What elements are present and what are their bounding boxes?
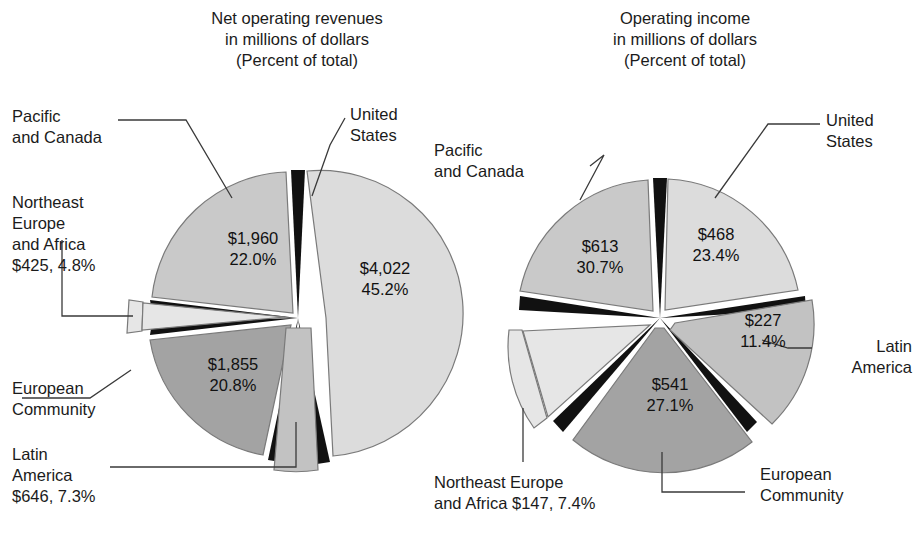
slice-label-left-pacific-canada: $1,960 22.0% — [198, 228, 308, 270]
pie-left-slice-latin-america — [274, 328, 318, 472]
slice-label-right-united-states: $468 23.4% — [666, 224, 766, 266]
callout-left-northeast-europe-africa: Northeast Europe and Africa $425, 4.8% — [12, 192, 95, 276]
leader-left-united-states — [312, 118, 345, 196]
slice-label-right-european-community: $541 27.1% — [620, 374, 720, 416]
leader-left-pacific-canada — [118, 120, 232, 198]
callout-right-pacific-canada: Pacific and Canada — [434, 140, 524, 182]
slice-label-right-latin-america: $227 11.4% — [716, 310, 810, 352]
leader-right-pacific-canada — [580, 155, 604, 200]
leader-right-european-community — [662, 452, 745, 492]
callout-left-united-states: United States — [350, 104, 398, 146]
callout-left-european-community: European Community — [12, 378, 95, 420]
chart-title-operating-income: Operating income in millions of dollars … — [540, 8, 830, 71]
pie-left-slice-northeast-europe-africa — [127, 300, 143, 333]
pie-left-separators — [150, 170, 330, 464]
callout-left-pacific-canada: Pacific and Canada — [12, 106, 102, 148]
pie-right-slice-northeast-europe-africa — [508, 330, 547, 428]
callout-right-european-community: European Community — [760, 464, 843, 506]
pie-left-slice-united-states — [307, 170, 463, 456]
slice-label-left-united-states: $4,022 45.2% — [330, 258, 440, 300]
callout-right-united-states: United States — [826, 110, 874, 152]
leader-lines-right — [523, 124, 820, 492]
pie-left — [127, 170, 463, 472]
callout-right-northeast-europe-africa: Northeast Europe and Africa $147, 7.4% — [434, 472, 595, 514]
slice-label-right-pacific-canada: $613 30.7% — [550, 236, 650, 278]
leader-right-united-states — [715, 124, 820, 198]
pie-left-slice-northeast-europe-africa-inner — [142, 303, 285, 330]
callout-left-latin-america: Latin America $646, 7.3% — [12, 444, 95, 507]
chart-title-net-operating-revenues: Net operating revenues in millions of do… — [152, 8, 442, 71]
leader-left-latin-america — [110, 422, 296, 467]
slice-label-left-european-community: $1,855 20.8% — [178, 354, 288, 396]
